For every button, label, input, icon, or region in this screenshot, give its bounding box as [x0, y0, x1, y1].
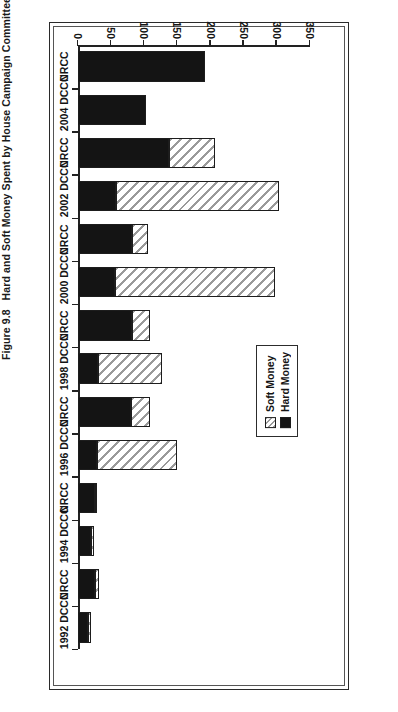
bar-stack[interactable]	[78, 181, 310, 211]
value-axis-tick-label: 50	[105, 5, 117, 39]
bar-segment-hard-money[interactable]	[78, 51, 205, 81]
legend-swatch-icon	[265, 417, 276, 428]
value-axis-tick-label: 150	[171, 5, 183, 39]
bar-segment-soft-money[interactable]	[97, 440, 177, 470]
category-axis-tick	[72, 649, 78, 650]
bar-stack[interactable]	[78, 569, 310, 599]
category-axis-tick	[72, 347, 78, 348]
legend-inner: Soft MoneyHard Money	[263, 352, 292, 428]
category-label: 1992 DCCC	[58, 606, 70, 649]
value-axis-tick-label: 100	[138, 5, 150, 39]
legend-label: Soft Money	[264, 356, 276, 413]
category-label: 1996 DCCC	[58, 433, 70, 476]
bar-segment-hard-money[interactable]	[78, 526, 91, 556]
value-axis-tick	[242, 40, 243, 46]
figure-title: Hard and Soft Money Spent by House Campa…	[0, 0, 12, 300]
category-axis-tick	[72, 131, 78, 132]
value-axis-tick	[77, 40, 78, 46]
category-axis-tick	[72, 520, 78, 521]
bar-stack[interactable]	[78, 440, 310, 470]
category-axis-tick	[72, 174, 78, 175]
value-axis-tick	[209, 40, 210, 46]
chart-legend: Soft MoneyHard Money	[256, 345, 298, 437]
legend-item[interactable]: Hard Money	[278, 352, 292, 428]
bar-segment-hard-money[interactable]	[78, 267, 115, 297]
bar-segment-hard-money[interactable]	[78, 612, 88, 642]
figure-page: Figure 9.8Hard and Soft Money Spent by H…	[0, 0, 398, 712]
value-axis-tick-label: 0	[72, 5, 84, 39]
bar-segment-hard-money[interactable]	[78, 569, 95, 599]
category-label: 1994 DCCC	[58, 520, 70, 563]
bar-segment-hard-money[interactable]	[78, 95, 146, 125]
category-axis-tick	[72, 218, 78, 219]
plot-area: $ Millions 350300250200150100500 NRCC200…	[78, 45, 310, 649]
bar-segment-soft-money[interactable]	[115, 267, 275, 297]
bar-segment-soft-money[interactable]	[95, 569, 98, 599]
category-axis-tick	[72, 433, 78, 434]
value-axis-tick	[110, 40, 111, 46]
value-axis-tick	[143, 40, 144, 46]
bar-stack[interactable]	[78, 310, 310, 340]
bar-segment-hard-money[interactable]	[78, 310, 132, 340]
value-axis-tick	[275, 40, 276, 46]
bar-stack[interactable]	[78, 51, 310, 81]
bar-segment-hard-money[interactable]	[78, 224, 132, 254]
value-axis-tick	[176, 40, 177, 46]
category-label: 1998 DCCC	[58, 347, 70, 390]
category-label: 2004 DCCC	[58, 88, 70, 131]
category-axis-tick	[72, 476, 78, 477]
bar-segment-hard-money[interactable]	[78, 483, 95, 513]
bar-stack[interactable]	[78, 95, 310, 125]
bar-segment-hard-money[interactable]	[78, 353, 98, 383]
bar-segment-soft-money[interactable]	[88, 612, 91, 642]
category-axis-tick	[72, 261, 78, 262]
bar-segment-soft-money[interactable]	[131, 397, 150, 427]
category-axis-tick	[72, 304, 78, 305]
category-label: 2002 DCCC	[58, 174, 70, 217]
category-axis-tick	[72, 390, 78, 391]
figure-number: Figure 9.8	[0, 309, 12, 360]
category-axis-tick	[72, 88, 78, 89]
value-axis-tick-label: 350	[304, 5, 316, 39]
bar-segment-hard-money[interactable]	[78, 181, 116, 211]
bar-stack[interactable]	[78, 138, 310, 168]
category-axis-tick	[72, 563, 78, 564]
bar-segment-soft-money[interactable]	[132, 310, 151, 340]
bar-segment-soft-money[interactable]	[116, 181, 279, 211]
bar-segment-hard-money[interactable]	[78, 397, 131, 427]
bar-segment-soft-money[interactable]	[132, 224, 148, 254]
bar-segment-soft-money[interactable]	[169, 138, 215, 168]
bar-segment-soft-money[interactable]	[91, 526, 94, 556]
bar-stack[interactable]	[78, 224, 310, 254]
bar-stack[interactable]	[78, 526, 310, 556]
legend-label: Hard Money	[279, 352, 291, 412]
bar-stack[interactable]	[78, 267, 310, 297]
chart-rotated-container: $ Millions 350300250200150100500 NRCC200…	[49, 22, 349, 690]
legend-swatch-icon	[280, 417, 291, 428]
bar-segment-soft-money[interactable]	[95, 483, 97, 513]
value-axis-tick-label: 250	[238, 5, 250, 39]
figure-caption: Figure 9.8Hard and Soft Money Spent by H…	[0, 0, 16, 360]
legend-item[interactable]: Soft Money	[263, 352, 277, 428]
category-axis-line	[78, 45, 80, 649]
chart-frame: $ Millions 350300250200150100500 NRCC200…	[49, 22, 349, 690]
bar-segment-soft-money[interactable]	[98, 353, 162, 383]
bar-segment-hard-money[interactable]	[78, 138, 169, 168]
category-label: 2000 DCCC	[58, 261, 70, 304]
bar-stack[interactable]	[78, 483, 310, 513]
value-axis-tick-label: 200	[205, 5, 217, 39]
bar-segment-hard-money[interactable]	[78, 440, 97, 470]
value-axis-tick	[309, 40, 310, 46]
category-axis-tick	[72, 606, 78, 607]
bar-stack[interactable]	[78, 612, 310, 642]
value-axis-tick-label: 300	[271, 5, 283, 39]
